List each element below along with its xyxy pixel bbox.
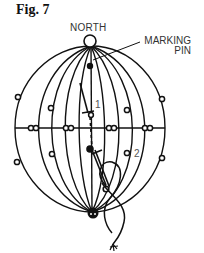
north-pole-ring (84, 35, 96, 47)
marking-pin (87, 63, 93, 69)
south-pole-knot (88, 208, 99, 219)
globe-diagram (0, 0, 204, 253)
string-tassel (110, 244, 118, 251)
